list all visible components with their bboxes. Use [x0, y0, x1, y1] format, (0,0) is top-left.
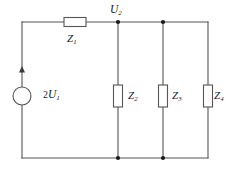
resistor-z4-body [204, 85, 213, 107]
label-impedance-z1: Z1 [67, 33, 77, 46]
resistor-z2-body [114, 85, 123, 107]
junction-dot-bottom-z3 [161, 156, 165, 160]
label-u2-subscript: 2 [118, 9, 122, 17]
label-source-symbol: U [48, 88, 56, 100]
junction-dot-top-z3 [161, 20, 165, 24]
label-node-voltage-u2: U2 [110, 4, 122, 17]
label-z4-subscript: 4 [220, 95, 223, 102]
current-arrow-icon [19, 66, 25, 73]
label-impedance-z4: Z4 [214, 90, 224, 103]
resistor-z1-body [64, 18, 86, 27]
label-impedance-z3: Z3 [172, 90, 182, 103]
label-impedance-z2: Z2 [128, 90, 138, 103]
label-z1-subscript: 1 [73, 38, 76, 45]
circuit-diagram: U2 Z1 2U1 Z2 Z3 Z4 [0, 0, 230, 176]
label-z3-subscript: 3 [178, 95, 181, 102]
resistor-z3-body [159, 85, 168, 107]
junction-dot-bottom-z2 [116, 156, 120, 160]
label-source-subscript: 1 [56, 94, 60, 102]
voltage-source-circle [13, 87, 31, 105]
label-source-2u1: 2U1 [43, 89, 60, 102]
circuit-schematic-svg [0, 0, 230, 176]
label-z2-subscript: 2 [134, 95, 137, 102]
junction-dot-top-z2 [116, 20, 120, 24]
